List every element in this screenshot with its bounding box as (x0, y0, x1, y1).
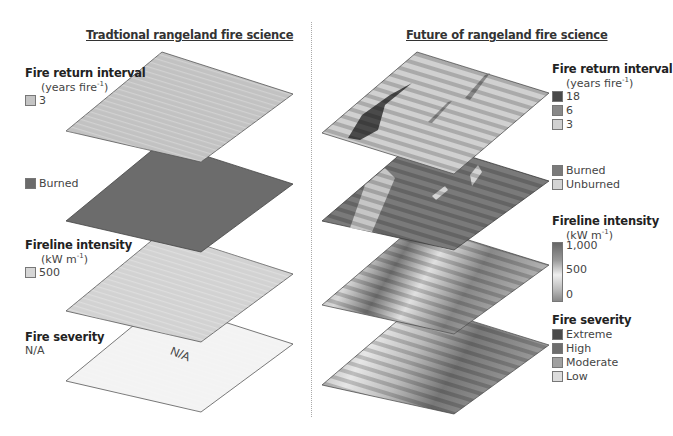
legend-label: 500 (39, 266, 60, 279)
legend-value: N/A (25, 344, 104, 357)
legend-swatch (552, 357, 563, 368)
legend-label: 3 (39, 94, 46, 107)
legend-label: Unburned (566, 178, 620, 191)
scale-label: 0 (566, 288, 598, 301)
legend-swatch (552, 165, 563, 176)
legend-heading: Fireline intensity (25, 238, 132, 252)
legend-swatch (552, 329, 563, 340)
left-plate-burned (66, 142, 293, 252)
legend-swatch (552, 91, 563, 102)
legend-label: Burned (39, 177, 79, 190)
legend-label: 3 (566, 118, 573, 131)
right-legend-burned: Burned Unburned (552, 163, 620, 191)
left-legend-intensity: Fireline intensity (kW m-1) 500 (25, 238, 132, 280)
intensity-gradient-bar (552, 242, 563, 302)
legend-heading: Fire severity (25, 330, 104, 344)
right-plate-fire-return (322, 52, 549, 174)
legend-swatch (25, 267, 36, 278)
right-panel-title: Future of rangeland fire science (406, 28, 608, 42)
legend-heading: Fire return interval (552, 62, 673, 76)
right-legend-fire-return: Fire return interval (years fire-1) 18 6… (552, 62, 673, 132)
left-legend-fire-return: Fire return interval (years fire-1) 3 (25, 66, 146, 108)
left-legend-burned: Burned (25, 176, 79, 190)
legend-label: High (566, 342, 591, 355)
legend-label: 6 (566, 104, 573, 117)
legend-units: (years fire-1) (566, 76, 673, 90)
legend-heading: Fire severity (552, 313, 631, 327)
legend-units: (years fire-1) (41, 80, 146, 94)
legend-heading: Fire return interval (25, 66, 146, 80)
legend-heading: Fireline intensity (552, 214, 659, 228)
legend-label: Low (566, 370, 588, 383)
legend-swatch (552, 179, 563, 190)
scale-label: 1,000 (566, 239, 598, 252)
legend-swatch (552, 371, 563, 382)
right-legend-severity: Fire severity Extreme High Moderate Low (552, 313, 631, 383)
legend-label: Moderate (566, 356, 618, 369)
right-legend-intensity: Fireline intensity (kW m-1) 1,000 500 0 (552, 214, 659, 302)
scale-label: 500 (566, 263, 598, 276)
panel-divider (311, 22, 312, 417)
legend-label: 18 (566, 90, 580, 103)
legend-swatch (25, 178, 36, 189)
legend-swatch (25, 95, 36, 106)
left-legend-severity: Fire severity N/A (25, 330, 104, 357)
left-panel-title: Tradtional rangeland fire science (86, 28, 293, 42)
legend-swatch (552, 105, 563, 116)
legend-label: Extreme (566, 328, 612, 341)
legend-units: (kW m-1) (41, 252, 132, 266)
legend-label: Burned (566, 164, 606, 177)
legend-swatch (552, 119, 563, 130)
legend-swatch (552, 343, 563, 354)
